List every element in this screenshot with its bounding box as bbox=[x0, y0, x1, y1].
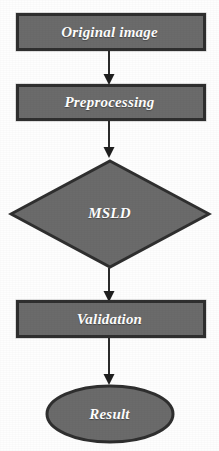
arrow-validation-to-result bbox=[97, 338, 121, 386]
flowchart-canvas: Original image Preprocessing MSLD Valida… bbox=[0, 0, 219, 451]
node-msld[interactable] bbox=[8, 158, 212, 270]
arrow-preprocessing-to-msld bbox=[97, 121, 121, 159]
arrow-msld-to-validation bbox=[97, 268, 121, 303]
node-original-image[interactable] bbox=[16, 13, 206, 51]
node-validation[interactable] bbox=[16, 300, 206, 338]
node-result[interactable] bbox=[44, 383, 176, 445]
node-preprocessing[interactable] bbox=[16, 84, 206, 121]
arrow-original-to-preprocessing bbox=[97, 51, 121, 86]
